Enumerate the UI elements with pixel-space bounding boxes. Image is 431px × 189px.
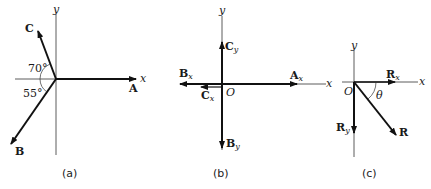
vector-b-label: B (15, 145, 24, 158)
origin-label: O (344, 85, 353, 98)
panel-b: y x O Ax Bx Cx Cy By (b) (179, 4, 333, 180)
y-axis-label: y (52, 3, 60, 16)
angle-label-70: 70° (28, 62, 48, 75)
x-axis-label: x (419, 75, 426, 88)
angle-label-55: 55° (23, 87, 43, 100)
component-by-label: By (226, 137, 240, 151)
caption-a: (a) (62, 167, 77, 180)
caption-c: (c) (362, 167, 377, 180)
origin-label: O (226, 86, 235, 99)
panel-c: y x O θ Rx Ry R (c) (336, 39, 426, 180)
x-axis-label: x (140, 72, 147, 85)
component-cx-label: Cx (201, 89, 215, 103)
x-axis-label: x (326, 77, 333, 90)
component-ry-label: Ry (336, 121, 350, 135)
component-ax-label: Ax (289, 69, 304, 83)
component-cy-label: Cy (225, 40, 239, 54)
panel-a: y x C A B 70° 55° (a) (11, 3, 147, 180)
angle-arc-theta (368, 82, 376, 99)
component-bx-label: Bx (179, 67, 193, 81)
vector-a-label: A (128, 82, 138, 95)
y-axis-label: y (350, 39, 358, 52)
y-axis-label: y (218, 4, 226, 17)
component-rx-label: Rx (386, 68, 400, 82)
vector-diagram: y x C A B 70° 55° (a) y x O Ax Bx Cx Cy … (0, 0, 431, 189)
caption-b: (b) (213, 167, 229, 180)
vector-r-label: R (399, 126, 409, 139)
vector-c-label: C (25, 22, 34, 35)
angle-label-theta: θ (376, 89, 383, 102)
